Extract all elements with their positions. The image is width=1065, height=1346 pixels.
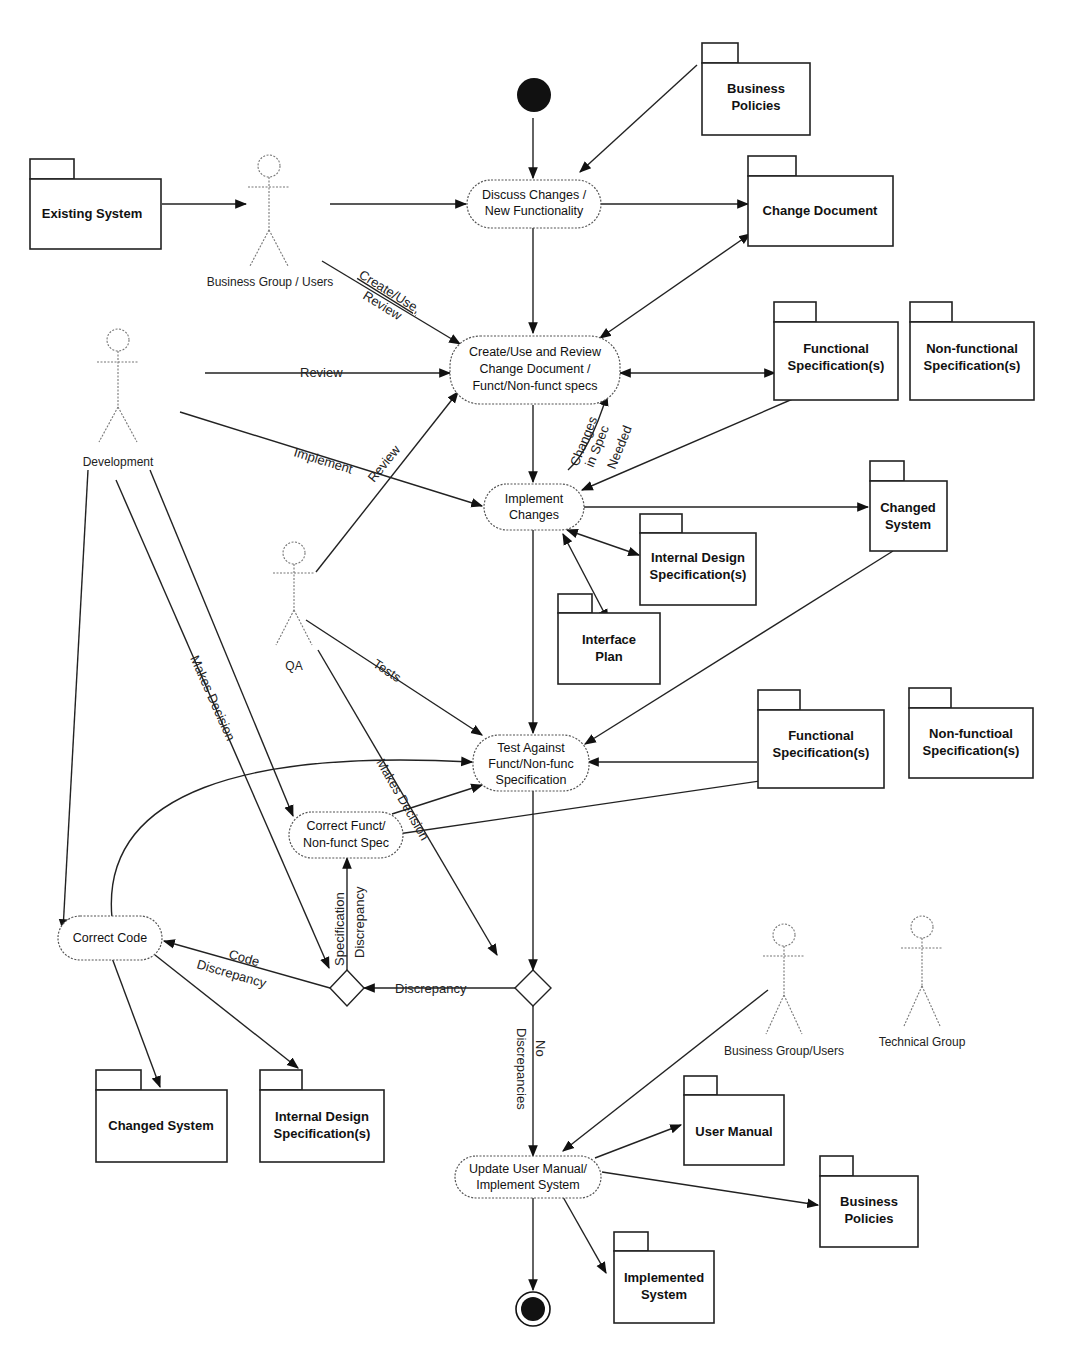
actor-qa: QA: [273, 542, 315, 673]
svg-text:Change Document: Change Document: [763, 203, 879, 218]
svg-text:Specification(s): Specification(s): [274, 1126, 371, 1141]
activity-implement-changes: Implement Changes: [484, 484, 584, 530]
activity-correct-code: Correct Code: [58, 916, 162, 960]
actor-technical-group: Technical Group: [879, 916, 966, 1049]
svg-text:Interface: Interface: [582, 632, 636, 647]
package-user-manual: User Manual: [684, 1076, 784, 1165]
package-functional-spec-2: Functional Specification(s): [758, 690, 884, 788]
package-existing-system: Existing System: [30, 159, 161, 249]
svg-text:Update User Manual/: Update User Manual/: [469, 1162, 588, 1176]
svg-text:Specification(s): Specification(s): [650, 567, 747, 582]
initial-node: [517, 78, 551, 112]
svg-text:Create/Use and Review: Create/Use and Review: [469, 345, 602, 359]
svg-text:Funct/Non-funct specs: Funct/Non-funct specs: [472, 379, 597, 393]
activity-update-user-manual: Update User Manual/ Implement System: [455, 1156, 601, 1198]
svg-text:Policies: Policies: [731, 98, 780, 113]
edge-label-spec-discrepancy: Discrepancy: [352, 886, 367, 958]
package-business-policies-top: Business Policies: [702, 43, 810, 135]
actor-business-group-users-top: Business Group / Users: [207, 155, 334, 289]
svg-text:Business Group / Users: Business Group / Users: [207, 275, 334, 289]
actor-business-group-users-bottom: Business Group/Users: [724, 924, 844, 1058]
edge-label-discrepancy: Discrepancy: [395, 981, 467, 996]
svg-text:Functional: Functional: [788, 728, 854, 743]
svg-text:Correct Funct/: Correct Funct/: [306, 819, 386, 833]
svg-text:Functional: Functional: [803, 341, 869, 356]
package-nonfunctional-spec-2: Non-functioal Specification(s): [909, 688, 1033, 778]
package-implemented-system: Implemented System: [614, 1232, 714, 1323]
svg-text:Specification(s): Specification(s): [923, 743, 1020, 758]
svg-text:Discuss Changes /: Discuss Changes /: [482, 188, 587, 202]
svg-text:Development: Development: [83, 455, 154, 469]
final-node: [516, 1292, 550, 1326]
svg-text:Changed System: Changed System: [108, 1118, 213, 1133]
package-internal-design-2: Internal Design Specification(s): [260, 1070, 384, 1162]
decision-discrepancy-type: [330, 970, 364, 1006]
activity-test-against-spec: Test Against Funct/Non-func Specificatio…: [473, 735, 589, 791]
svg-text:Plan: Plan: [595, 649, 623, 664]
svg-text:System: System: [641, 1287, 687, 1302]
svg-text:Non-functional: Non-functional: [926, 341, 1018, 356]
svg-text:Funct/Non-func: Funct/Non-func: [488, 757, 573, 771]
svg-text:New Functionality: New Functionality: [485, 204, 584, 218]
svg-text:QA: QA: [285, 659, 302, 673]
package-internal-design-1: Internal Design Specification(s): [640, 514, 756, 605]
svg-text:Changes: Changes: [509, 508, 559, 522]
svg-text:Implemented: Implemented: [624, 1270, 704, 1285]
activity-correct-spec: Correct Funct/ Non-funct Spec: [289, 812, 403, 858]
activity-discuss-changes: Discuss Changes / New Functionality: [467, 180, 601, 228]
svg-text:Business: Business: [727, 81, 785, 96]
svg-text:Business Group/Users: Business Group/Users: [724, 1044, 844, 1058]
activity-diagram: Create/Use, Review Review Implement Revi…: [0, 0, 1065, 1346]
edge-label-implement: Implement: [292, 445, 355, 477]
edge-label-review-dev: Review: [300, 365, 343, 380]
svg-text:Specification(s): Specification(s): [773, 745, 870, 760]
svg-text:System: System: [885, 517, 931, 532]
edge-label-specification: Specification: [332, 892, 347, 966]
edge-label-no: No: [533, 1040, 548, 1057]
svg-text:Change Document /: Change Document /: [479, 362, 591, 376]
svg-text:Business: Business: [840, 1194, 898, 1209]
svg-text:Policies: Policies: [844, 1211, 893, 1226]
svg-text:Implement System: Implement System: [476, 1178, 580, 1192]
svg-text:Internal Design: Internal Design: [651, 550, 745, 565]
package-interface-plan: Interface Plan: [558, 594, 660, 684]
svg-text:Internal Design: Internal Design: [275, 1109, 369, 1124]
activity-create-review: Create/Use and Review Change Document / …: [450, 336, 620, 404]
svg-text:Changed: Changed: [880, 500, 936, 515]
svg-text:Test Against: Test Against: [497, 741, 565, 755]
svg-text:Existing System: Existing System: [42, 206, 142, 221]
package-changed-system-1: Changed System: [870, 461, 947, 551]
svg-text:Non-funct Spec: Non-funct Spec: [303, 836, 389, 850]
svg-text:Specification(s): Specification(s): [788, 358, 885, 373]
svg-text:Implement: Implement: [505, 492, 564, 506]
package-change-document: Change Document: [748, 156, 893, 246]
package-nonfunctional-spec-1: Non-functional Specification(s): [910, 302, 1034, 400]
svg-text:Specification: Specification: [496, 773, 567, 787]
package-business-policies-bottom: Business Policies: [820, 1156, 918, 1247]
svg-text:Specification(s): Specification(s): [924, 358, 1021, 373]
svg-text:User Manual: User Manual: [695, 1124, 772, 1139]
package-functional-spec-1: Functional Specification(s): [774, 302, 898, 400]
decision-discrepancy: [515, 970, 551, 1006]
edge-label-discrepancies: Discrepancies: [514, 1028, 529, 1110]
edge-label-review-qa: Review: [365, 442, 404, 485]
package-changed-system-2: Changed System: [96, 1070, 227, 1162]
svg-text:Non-functioal: Non-functioal: [929, 726, 1013, 741]
svg-text:Correct Code: Correct Code: [73, 931, 147, 945]
svg-text:Technical Group: Technical Group: [879, 1035, 966, 1049]
actor-development: Development: [83, 329, 154, 469]
